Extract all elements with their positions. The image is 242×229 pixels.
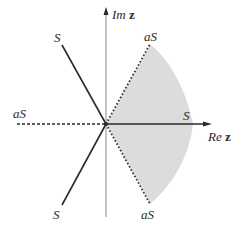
label-lower-left-s: S <box>53 207 60 222</box>
ray-upper-left-solid <box>62 45 106 124</box>
imaginary-axis-arrow-icon <box>104 7 109 15</box>
complex-plane-diagram: Im z Re z S S S aS aS aS <box>0 0 242 229</box>
ray-lower-left-solid <box>62 124 106 205</box>
label-upper-right-as: aS <box>144 29 158 44</box>
label-upper-left-s: S <box>54 30 61 45</box>
origin-point <box>104 122 108 126</box>
label-positive-real-s: S <box>183 108 190 123</box>
label-negative-real-as: aS <box>13 106 27 121</box>
label-lower-right-as: aS <box>141 207 155 222</box>
label-im-z: Im z <box>111 7 135 22</box>
label-re-z: Re z <box>207 129 231 144</box>
real-axis-arrow-icon <box>203 122 212 127</box>
